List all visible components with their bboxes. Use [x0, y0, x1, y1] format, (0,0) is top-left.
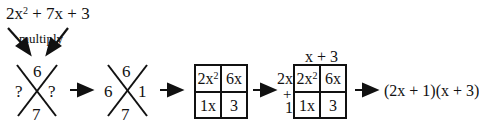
- box2-cell-top-left: 2x2: [294, 71, 320, 87]
- box2-cell-bottom-left: 1x: [294, 98, 320, 114]
- x2-left-value: 6: [104, 83, 113, 100]
- box2-side-top: 2x: [277, 70, 293, 87]
- multiply-annotation: multiply: [19, 30, 63, 47]
- expression-lead-exponent: 2: [23, 5, 28, 16]
- box1-cell-top-right: 6x: [221, 71, 247, 87]
- x2-bottom-value: 7: [121, 106, 130, 123]
- box2-side-bottom: 1: [285, 99, 293, 116]
- x1-right-value: ?: [48, 83, 56, 100]
- x2-right-value: 1: [138, 83, 147, 100]
- x1-top-value: 6: [33, 63, 42, 80]
- box1-cell-bottom-left: 1x: [195, 98, 221, 114]
- box2-cell-top-right: 6x: [320, 71, 346, 87]
- box1-cell-top-left: 2x2: [195, 71, 221, 87]
- arrow-right-icon: [253, 84, 275, 96]
- box2-cell-bottom-right: 3: [320, 98, 346, 114]
- box2-top-label: x + 3: [305, 48, 338, 65]
- x2-top-value: 6: [122, 63, 131, 80]
- arrow-right-icon: [160, 84, 182, 96]
- expression-lead: 2x: [6, 4, 23, 23]
- arrow-right-icon: [70, 84, 92, 96]
- arrow-right-icon: [355, 84, 377, 96]
- box1-cell-bottom-right: 3: [221, 98, 247, 114]
- expression-rest: + 7x + 3: [28, 4, 90, 23]
- x1-left-value: ?: [15, 83, 23, 100]
- x1-bottom-value: 7: [32, 106, 41, 123]
- factored-result: (2x + 1)(x + 3): [384, 82, 479, 99]
- quadratic-expression: 2x2 + 7x + 3: [6, 5, 90, 22]
